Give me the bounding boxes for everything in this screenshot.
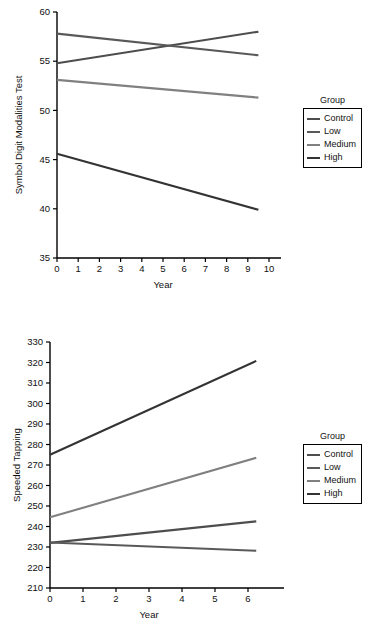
y-tick-label: 230 [27, 541, 43, 552]
y-tick-label: 290 [27, 418, 43, 429]
legend-title: Group [303, 431, 362, 442]
y-axis-title: Speeded Tapping [11, 428, 22, 502]
legend-label-high: High [324, 152, 343, 163]
x-tick-label: 8 [224, 263, 229, 274]
chart-panel-speeded-tapping: 2102202302402502602702802903003103203300… [0, 313, 379, 626]
y-tick-label: 240 [27, 521, 43, 532]
legend-item-low: Low [307, 125, 356, 138]
x-tick-label: 0 [54, 263, 59, 274]
y-tick-label: 270 [27, 459, 43, 470]
legend-item-control: Control [307, 448, 356, 461]
legend-swatch-low [307, 467, 320, 469]
legend-swatch-control [307, 118, 320, 120]
legend-speeded-tapping: Group Control Low Medium High [303, 431, 362, 504]
legend-label-high: High [324, 488, 343, 499]
x-tick-label: 6 [245, 593, 250, 604]
y-tick-label: 35 [39, 252, 50, 263]
y-axis-title: Symbol Digit Modalities Test [13, 75, 24, 194]
legend-swatch-low [307, 131, 320, 133]
legend-label-low: Low [324, 462, 341, 473]
y-tick-label: 320 [27, 357, 43, 368]
x-tick-label: 1 [76, 263, 81, 274]
y-tick-label: 50 [39, 105, 50, 116]
series-line-low [50, 542, 256, 550]
legend-item-medium: Medium [307, 138, 356, 151]
legend-swatch-control [307, 454, 320, 456]
legend-label-control: Control [324, 449, 353, 460]
legend-item-low: Low [307, 461, 356, 474]
x-tick-label: 4 [179, 593, 184, 604]
series-line-high [57, 154, 258, 210]
legend-item-high: High [307, 487, 356, 500]
legend-swatch-medium [307, 144, 320, 146]
legend-swatch-high [307, 157, 320, 159]
y-tick-label: 250 [27, 500, 43, 511]
legend-label-medium: Medium [324, 475, 356, 486]
y-tick-label: 280 [27, 439, 43, 450]
x-tick-label: 3 [118, 263, 123, 274]
x-axis-title: Year [153, 279, 172, 290]
legend-item-high: High [307, 151, 356, 164]
series-line-high [50, 361, 256, 455]
y-tick-label: 300 [27, 398, 43, 409]
y-tick-label: 55 [39, 55, 50, 66]
legend-swatch-high [307, 493, 320, 495]
legend-label-control: Control [324, 113, 353, 124]
y-tick-label: 60 [39, 6, 50, 17]
y-tick-label: 45 [39, 154, 50, 165]
legend-label-low: Low [324, 126, 341, 137]
x-tick-label: 0 [47, 593, 52, 604]
y-tick-label: 40 [39, 203, 50, 214]
x-tick-label: 9 [245, 263, 250, 274]
series-line-medium [57, 80, 258, 98]
chart-panel-symbol-digit: 354045505560012345678910YearSymbol Digit… [0, 0, 379, 313]
y-tick-label: 220 [27, 562, 43, 573]
legend-title: Group [303, 95, 362, 106]
x-tick-label: 2 [113, 593, 118, 604]
x-tick-label: 3 [146, 593, 151, 604]
y-tick-label: 210 [27, 582, 43, 593]
x-tick-label: 5 [160, 263, 165, 274]
x-tick-label: 4 [139, 263, 144, 274]
x-tick-label: 6 [182, 263, 187, 274]
series-line-medium [50, 458, 256, 517]
legend-frame: Control Low Medium High [303, 108, 362, 168]
x-tick-label: 5 [212, 593, 217, 604]
y-tick-label: 260 [27, 480, 43, 491]
x-tick-label: 1 [80, 593, 85, 604]
x-tick-label: 10 [264, 263, 275, 274]
legend-label-medium: Medium [324, 139, 356, 150]
series-line-control [50, 521, 256, 543]
x-tick-label: 2 [97, 263, 102, 274]
y-tick-label: 310 [27, 377, 43, 388]
legend-item-control: Control [307, 112, 356, 125]
legend-swatch-medium [307, 480, 320, 482]
x-axis-title: Year [139, 609, 158, 620]
y-tick-label: 330 [27, 336, 43, 347]
x-tick-label: 7 [203, 263, 208, 274]
legend-item-medium: Medium [307, 474, 356, 487]
legend-symbol-digit: Group Control Low Medium High [303, 95, 362, 168]
legend-frame: Control Low Medium High [303, 444, 362, 504]
